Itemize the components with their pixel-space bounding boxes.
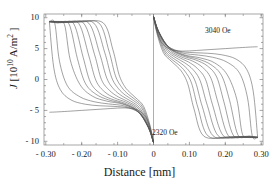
x-tick-label: 0.30 [241, 150, 279, 159]
y-tick-label: 10 [17, 13, 39, 22]
y-axis-unit-close: ] [7, 28, 19, 34]
x-tick-label: - 0.30 [26, 150, 66, 159]
field-annotation: 3040 Oe [205, 27, 231, 35]
y-tick-label: 0 [17, 75, 39, 84]
y-axis-unit-exponent: 10 [6, 59, 15, 66]
y-axis-symbol: J [7, 84, 19, 89]
x-tick-label: 0.20 [205, 150, 245, 159]
x-axis-label: Distance [mm] [0, 166, 279, 178]
x-tick-label: - 0.10 [98, 150, 138, 159]
x-tick-label: 0.10 [169, 150, 209, 159]
y-tick-label: - 5 [17, 106, 39, 115]
figure-panel: J [1010 A/m2 ] Distance [mm] - 10- 50510… [0, 0, 279, 189]
x-tick-label: - 0.20 [62, 150, 102, 159]
y-axis-unit-suffix-exponent: 2 [6, 34, 15, 38]
field-annotation: 2320 Oe [152, 129, 178, 137]
y-tick-label: - 10 [17, 137, 39, 146]
chart-canvas [0, 0, 279, 189]
y-tick-label: 5 [17, 44, 39, 53]
x-tick-label: 0 [134, 150, 174, 159]
